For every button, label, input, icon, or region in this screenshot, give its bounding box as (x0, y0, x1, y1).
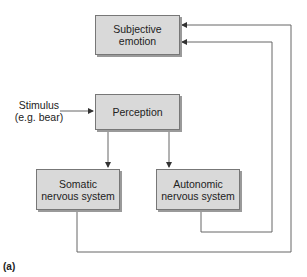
perception-label: Perception (112, 106, 162, 118)
somatic-box: Somatic nervous system (36, 169, 120, 210)
stimulus-label: Stimulus (e.g. bear) (14, 99, 64, 123)
subjective-emotion-line1: Subjective (113, 23, 161, 35)
stimulus-line1: Stimulus (14, 99, 64, 111)
panel-label: (a) (3, 261, 15, 272)
autonomic-line1: Autonomic (173, 178, 223, 190)
subjective-emotion-box: Subjective emotion (95, 15, 180, 55)
somatic-feedback-arrow (77, 25, 291, 252)
autonomic-line2: nervous system (161, 190, 235, 202)
subjective-emotion-line2: emotion (119, 35, 156, 47)
somatic-line2: nervous system (41, 190, 115, 202)
autonomic-box: Autonomic nervous system (156, 169, 240, 210)
somatic-line1: Somatic (59, 178, 97, 190)
perception-box: Perception (95, 94, 180, 130)
stimulus-line2: (e.g. bear) (14, 111, 64, 123)
